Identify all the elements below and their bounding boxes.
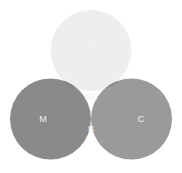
circle-yellow[interactable] — [51, 10, 132, 91]
venn-diagram-canvas: Y M C R G B BK — [0, 0, 182, 173]
venn-diagram-svg: Y M C R G B BK — [0, 0, 182, 173]
circle-magenta[interactable] — [10, 79, 91, 160]
base-circles-group — [10, 10, 172, 160]
label-black: BK — [85, 92, 97, 102]
circle-cyan[interactable] — [91, 79, 172, 160]
